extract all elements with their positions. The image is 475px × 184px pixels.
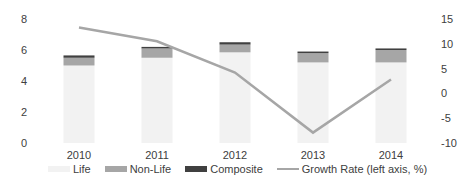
stacked-bar-line-chart: 02468 -10-5051015 20102011201220132014: [0, 0, 475, 184]
legend-label: Non-Life: [130, 163, 172, 175]
bar-segment-life: [220, 52, 251, 143]
bar-segment-life: [298, 62, 329, 143]
bars: [64, 42, 407, 143]
bar-segment-composite: [298, 52, 329, 54]
bar-segment-life: [142, 58, 173, 143]
bar-segment-non-life: [64, 58, 95, 66]
x-axis-tick: 2013: [301, 149, 325, 161]
right-axis-tick: 10: [441, 38, 453, 50]
legend-item-composite: Composite: [185, 163, 263, 175]
x-axis-tick: 2011: [145, 149, 169, 161]
x-axis-labels: 20102011201220132014: [67, 149, 403, 161]
bar-segment-life: [376, 62, 407, 143]
left-axis-tick: 6: [21, 44, 27, 56]
left-axis-tick: 2: [21, 106, 27, 118]
bar-segment-non-life: [220, 45, 251, 53]
right-axis-tick: -5: [441, 112, 451, 124]
composite-swatch-icon: [185, 166, 207, 172]
legend-item-growth-rate: Growth Rate (left axis, %): [277, 163, 427, 175]
bar-segment-non-life: [376, 50, 407, 62]
legend-label: Composite: [210, 163, 263, 175]
left-axis: 02468: [21, 13, 27, 149]
left-axis-tick: 0: [21, 137, 27, 149]
bar-segment-non-life: [142, 48, 173, 57]
bar-segment-life: [64, 66, 95, 144]
legend: Life Non-Life Composite Growth Rate (lef…: [0, 161, 475, 177]
x-axis-tick: 2010: [67, 149, 91, 161]
bar-segment-non-life: [298, 53, 329, 62]
bar-segment-composite: [142, 47, 173, 49]
legend-item-non-life: Non-Life: [105, 163, 172, 175]
left-axis-tick: 4: [21, 75, 27, 87]
right-axis: -10-5051015: [441, 13, 457, 149]
x-axis-tick: 2012: [223, 149, 247, 161]
life-swatch-icon: [48, 166, 70, 172]
legend-item-life: Life: [48, 163, 91, 175]
bar-segment-composite: [376, 48, 407, 50]
non-life-swatch-icon: [105, 166, 127, 172]
left-axis-tick: 8: [21, 13, 27, 25]
right-axis-tick: 0: [441, 87, 447, 99]
bar-segment-composite: [64, 55, 95, 57]
legend-label: Life: [73, 163, 91, 175]
bar-segment-composite: [220, 42, 251, 44]
right-axis-tick: 15: [441, 13, 453, 25]
legend-label: Growth Rate (left axis, %): [302, 163, 427, 175]
right-axis-tick: -10: [441, 137, 457, 149]
growth-line-swatch-icon: [277, 168, 299, 170]
x-axis-tick: 2014: [379, 149, 403, 161]
right-axis-tick: 5: [441, 63, 447, 75]
